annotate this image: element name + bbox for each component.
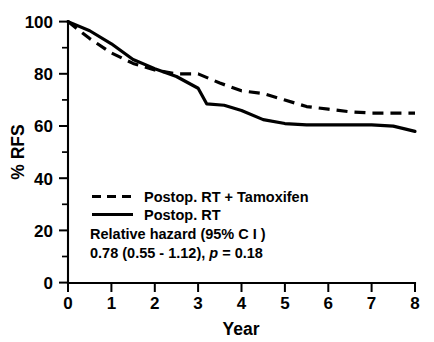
y-axis-tick-labels: 100 80 60 40 20 0 — [25, 13, 53, 293]
y-tick-label: 80 — [34, 65, 53, 84]
x-tick-label: 2 — [150, 294, 159, 313]
series-group — [68, 22, 415, 132]
series-line-postop-rt-tamoxifen — [68, 22, 415, 113]
x-tick-label: 7 — [367, 294, 376, 313]
x-axis-major-ticks — [68, 283, 415, 292]
hazard-annotation-value: 0.78 (0.55 - 1.12), p = 0.18 — [90, 245, 263, 261]
kaplan-meier-plot: 100 80 60 40 20 0 0 1 2 3 4 5 6 7 8 % RF… — [0, 0, 434, 342]
hazard-value-prefix: 0.78 (0.55 - 1.12), — [90, 245, 209, 261]
legend-label-postop-rt-tamoxifen: Postop. RT + Tamoxifen — [144, 189, 308, 205]
legend-label-postop-rt: Postop. RT — [144, 207, 221, 223]
x-tick-label: 3 — [193, 294, 202, 313]
x-tick-label: 0 — [63, 294, 72, 313]
y-axis-title: % RFS — [8, 124, 28, 179]
series-line-postop-rt — [68, 22, 415, 132]
y-tick-label: 0 — [44, 274, 53, 293]
y-tick-label: 100 — [25, 13, 53, 32]
x-tick-label: 6 — [324, 294, 333, 313]
hazard-p-symbol: p — [208, 245, 218, 261]
chart-figure: 100 80 60 40 20 0 0 1 2 3 4 5 6 7 8 % RF… — [0, 0, 434, 342]
x-tick-label: 5 — [280, 294, 289, 313]
x-axis-title: Year — [223, 319, 260, 339]
chart-legend: Postop. RT + Tamoxifen Postop. RT — [92, 189, 308, 223]
hazard-annotation: Relative hazard (95% C I ) 0.78 (0.55 - … — [90, 226, 266, 261]
x-tick-label: 4 — [237, 294, 247, 313]
x-tick-label: 8 — [410, 294, 419, 313]
hazard-p-value: = 0.18 — [218, 245, 263, 261]
x-tick-label: 1 — [107, 294, 116, 313]
y-tick-label: 40 — [34, 170, 53, 189]
y-tick-label: 60 — [34, 117, 53, 136]
hazard-annotation-heading: Relative hazard (95% C I ) — [90, 226, 266, 242]
y-tick-label: 20 — [34, 222, 53, 241]
x-axis-tick-labels: 0 1 2 3 4 5 6 7 8 — [63, 294, 419, 313]
